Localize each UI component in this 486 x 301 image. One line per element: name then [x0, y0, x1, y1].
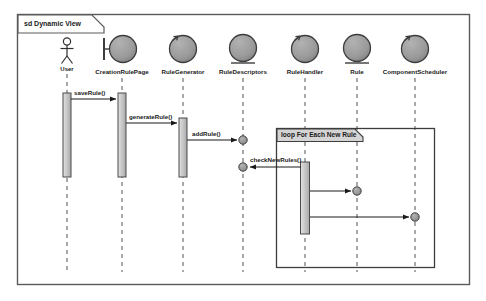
- message-label-checknewrules: checkNewRules(): [250, 156, 301, 163]
- lifeline-label-rulegenerator: RuleGenerator: [162, 68, 206, 75]
- message-label-addrule: addRule(): [192, 130, 221, 137]
- control-icon: [292, 36, 319, 63]
- lifeline-label-componentscheduler: ComponentScheduler: [383, 68, 448, 75]
- control-icon: [402, 36, 429, 63]
- frame-label: sd Dynamic View: [24, 20, 82, 28]
- activation-rulehandler[interactable]: [301, 162, 310, 234]
- lifeline-label-rule: Rule: [350, 68, 364, 75]
- lifeline-label-rulehandler: RuleHandler: [287, 68, 324, 75]
- message-label-saverule: saveRule(): [74, 89, 105, 96]
- message-label-generaterule: generateRule(): [129, 113, 172, 120]
- control-icon: [170, 36, 197, 63]
- activation-rulegenerator[interactable]: [179, 118, 187, 177]
- lifeline-label-user: User: [60, 66, 74, 72]
- message-end-ball: [239, 163, 247, 171]
- loop-fragment-label: loop For Each New Rule: [281, 131, 357, 139]
- message-end-ball: [411, 213, 419, 221]
- message-end-ball: [353, 187, 361, 195]
- message-end-ball: [239, 136, 247, 144]
- sequence-diagram-canvas: sd Dynamic View User CreationRulePage Ru…: [0, 0, 486, 301]
- lifeline-label-creationrulepage: CreationRulePage: [95, 68, 149, 75]
- activation-creationrulepage[interactable]: [118, 93, 126, 177]
- lifeline-label-ruledescriptors: RuleDescriptors: [219, 68, 267, 75]
- activation-user[interactable]: [63, 93, 71, 177]
